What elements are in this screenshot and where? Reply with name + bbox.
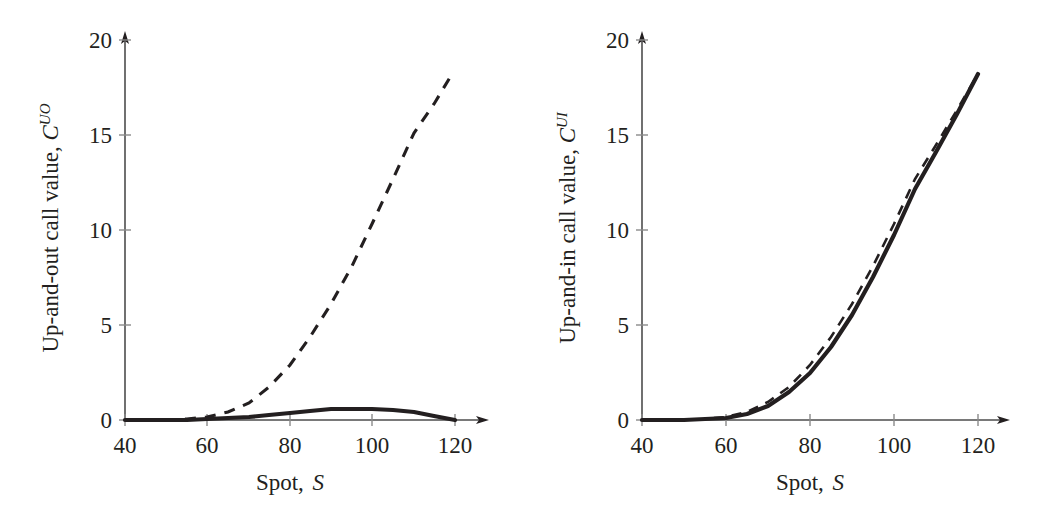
y-axis-title-superscript: UO: [37, 103, 53, 125]
y-axis-title-text: Up-and-out call value,: [38, 140, 63, 352]
y-axis-title-text: Up-and-in call value,: [555, 143, 580, 344]
x-axis-title-text: Spot,: [776, 470, 830, 495]
x-axis-title-symbol: S: [833, 470, 845, 495]
y-tick-label-0: 0: [101, 408, 113, 433]
svg-text:Spot, S: Spot, S: [776, 470, 845, 495]
y-tick-label-5: 5: [618, 313, 630, 338]
svg-text:Up-and-in call value, CUI: Up-and-in call value, CUI: [554, 111, 580, 344]
y-axis-title-symbol: C: [555, 127, 580, 143]
x-axis-title: Spot, S: [776, 470, 845, 495]
x-tick-label-40: 40: [114, 433, 137, 458]
y-tick-label-20: 20: [606, 28, 629, 53]
up-and-out-plot: 0 5 10 15 20 40 60 80 100 120 Spot, S Up…: [0, 0, 522, 519]
barrier-option-figure: 0 5 10 15 20 40 60 80 100 120 Spot, S Up…: [0, 0, 1045, 519]
x-tick-label-120: 120: [961, 433, 996, 458]
series-line-dashed: [125, 74, 452, 420]
x-axis-title: Spot, S: [256, 470, 325, 495]
x-tick-label-80: 80: [799, 433, 822, 458]
x-tick-label-100: 100: [877, 433, 912, 458]
series-line-dashed: [642, 74, 978, 420]
y-axis-title-superscript: UI: [554, 111, 570, 128]
y-tick-label-20: 20: [89, 28, 112, 53]
x-tick-label-60: 60: [196, 433, 219, 458]
x-tick-label-120: 120: [438, 433, 473, 458]
svg-text:Spot, S: Spot, S: [256, 470, 325, 495]
y-axis: [121, 31, 129, 420]
x-axis-title-symbol: S: [313, 470, 325, 495]
y-tick-label-15: 15: [606, 123, 629, 148]
y-axis-title-symbol: C: [38, 124, 63, 140]
svg-text:Up-and-out call value, CUO: Up-and-out call value, CUO: [37, 103, 63, 352]
y-tick-label-0: 0: [618, 408, 630, 433]
y-tick-label-10: 10: [89, 218, 112, 243]
chart-panel-up-and-out: 0 5 10 15 20 40 60 80 100 120 Spot, S Up…: [0, 0, 522, 519]
x-tick-label-100: 100: [355, 433, 390, 458]
x-tick-label-40: 40: [631, 433, 654, 458]
chart-panel-up-and-in: 0 5 10 15 20 40 60 80 100 120 Spot, S Up…: [522, 0, 1044, 519]
x-tick-label-60: 60: [715, 433, 738, 458]
y-tick-label-5: 5: [101, 313, 113, 338]
y-axis-title: Up-and-out call value, CUO: [37, 103, 63, 352]
x-axis-title-text: Spot,: [256, 470, 310, 495]
y-axis: [638, 31, 646, 420]
y-tick-label-15: 15: [89, 123, 112, 148]
y-tick-label-10: 10: [606, 218, 629, 243]
y-axis-title: Up-and-in call value, CUI: [554, 111, 580, 344]
x-tick-label-80: 80: [279, 433, 302, 458]
up-and-in-plot: 0 5 10 15 20 40 60 80 100 120 Spot, S Up…: [522, 0, 1044, 519]
series-line-solid: [642, 74, 978, 420]
